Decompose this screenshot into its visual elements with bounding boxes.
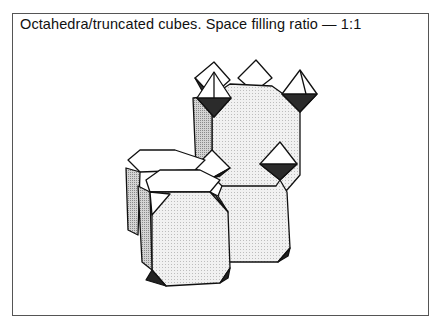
polyhedra-illustration bbox=[0, 0, 440, 326]
truncated-cube-front bbox=[138, 170, 230, 286]
